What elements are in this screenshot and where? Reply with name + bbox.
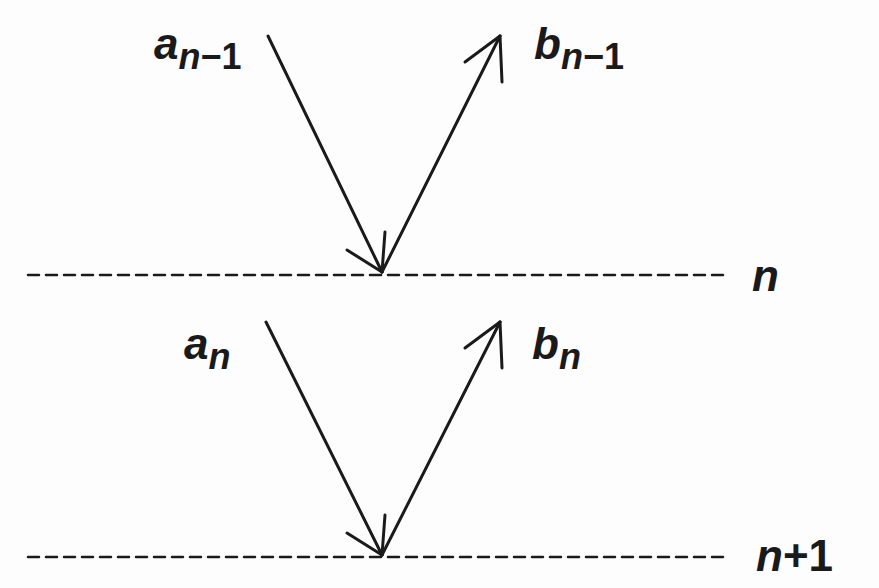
label-b-n-minus-1: bn−1 [534,22,624,66]
label-a-n: an [184,322,230,366]
label-interface-n-plus-1: n+1 [756,534,833,578]
label-b-n: bn [532,322,581,366]
diagram-lines [0,0,879,588]
label-a-n-minus-1: an−1 [154,22,242,66]
incoming-arrow-upper [268,36,385,272]
outgoing-arrow-upper [382,36,502,272]
label-interface-n: n [752,254,779,298]
incoming-arrow-lower [266,322,385,555]
layered-interface-diagram: an−1 bn−1 n an bn n+1 [0,0,879,588]
outgoing-arrow-lower [382,322,502,555]
